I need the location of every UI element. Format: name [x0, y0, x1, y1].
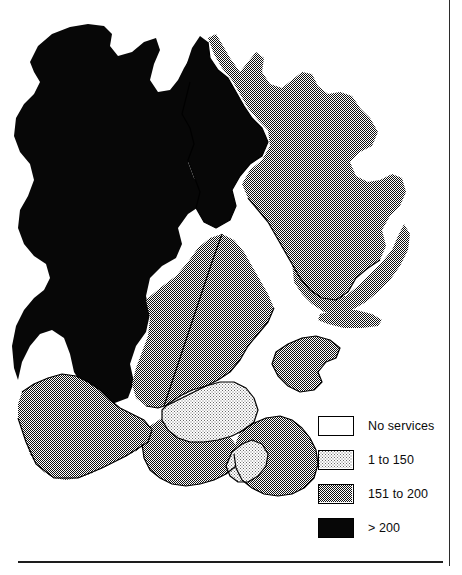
region-gaspe-peninsula	[272, 336, 340, 392]
page-root: No services 1 to 150	[0, 0, 462, 575]
legend-entry-over-200: > 200	[318, 518, 450, 538]
bottom-horizontal-rule	[18, 561, 443, 563]
map-legend: No services 1 to 150	[318, 416, 450, 552]
legend-swatch-no-services	[318, 416, 354, 436]
region-offshore-island	[318, 310, 382, 328]
legend-entry-no-services: No services	[318, 416, 450, 436]
legend-swatch-over-200	[318, 518, 354, 538]
legend-swatch-1-to-150	[318, 450, 354, 470]
legend-label-no-services: No services	[368, 419, 434, 433]
legend-entry-1-to-150: 1 to 150	[318, 450, 450, 470]
region-south-west	[18, 374, 152, 480]
legend-pattern-mid	[319, 485, 352, 502]
right-vertical-rule	[449, 0, 450, 566]
legend-label-1-to-150: 1 to 150	[368, 453, 414, 467]
legend-entry-151-to-200: 151 to 200	[318, 484, 450, 504]
legend-label-151-to-200: 151 to 200	[368, 487, 428, 501]
legend-label-over-200: > 200	[368, 521, 400, 535]
legend-swatch-151-to-200	[318, 484, 354, 504]
legend-pattern-light	[319, 451, 352, 468]
